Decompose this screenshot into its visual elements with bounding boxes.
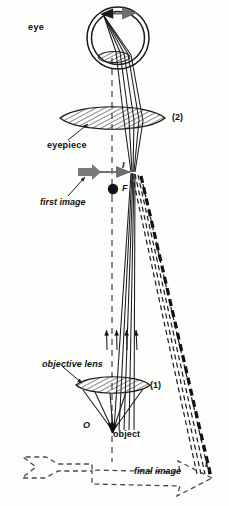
objective-lens <box>76 377 150 394</box>
final-image-arrow <box>22 457 212 496</box>
label-lens-one: (1) <box>150 380 161 390</box>
label-final-image: final image <box>134 466 181 476</box>
label-first-image: first image <box>40 197 86 207</box>
retinal-image-arrow <box>102 13 136 14</box>
label-eyepiece: eyepiece <box>47 140 87 150</box>
eye-group <box>87 7 149 69</box>
label-ray: r <box>205 459 209 469</box>
label-eye: eye <box>28 22 44 32</box>
label-object: object <box>113 429 140 439</box>
label-lens-two: (2) <box>172 112 183 122</box>
label-object-point: O <box>83 420 90 430</box>
ray-direction-arrows <box>107 330 138 350</box>
label-image-point: I <box>122 160 125 170</box>
label-objective-lens: objective lens <box>42 359 103 369</box>
diagram-canvas: eye eyepiece (2) first image F I objecti… <box>0 0 229 506</box>
eyepiece-pointer <box>68 124 88 140</box>
label-focal-point: F <box>122 183 128 193</box>
eye-internal-rays <box>104 16 131 55</box>
first-image-pointer <box>68 177 85 196</box>
objective-lens-pointer <box>63 367 82 383</box>
virtual-rays <box>132 174 209 474</box>
focal-point-dot <box>108 184 118 194</box>
eyepiece-lens <box>60 107 165 130</box>
principal-virtual-ray <box>141 176 211 477</box>
